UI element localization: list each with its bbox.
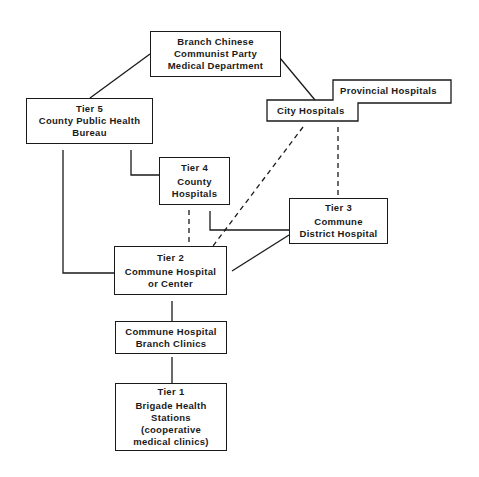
node-text: (cooperative (141, 424, 201, 436)
node-city-hospitals: City Hospitals (277, 105, 345, 116)
node-text: Commune Hospital (125, 326, 216, 338)
edge-party-city (275, 52, 315, 100)
node-text: Branch Chinese (177, 36, 254, 48)
node-provincial-hospitals: Provincial Hospitals (340, 85, 437, 96)
node-text: medical clinics) (133, 436, 209, 448)
node-text: County Public Health (39, 115, 141, 127)
node-text: or Center (148, 278, 193, 290)
node-text: Communist Party (174, 48, 257, 60)
tier-label: Tier 2 (157, 252, 184, 264)
node-tier2-commune-hospital: Tier 2 Commune Hospital or Center (114, 246, 227, 295)
edge-tier3-tier2 (232, 235, 289, 271)
health-system-diagram: Branch Chinese Communist Party Medical D… (0, 0, 479, 477)
node-tier5-county-public-health-bureau: Tier 5 County Public Health Bureau (26, 98, 153, 144)
node-tier4-county-hospitals: Tier 4 County Hospitals (159, 157, 230, 205)
node-tier1-brigade-health-stations: Tier 1 Brigade Health Stations (cooperat… (115, 383, 227, 451)
node-text: Commune Hospital (125, 266, 216, 278)
node-text: Stations (151, 412, 191, 424)
tier-label: Tier 3 (325, 202, 352, 214)
node-text: County (177, 176, 212, 188)
node-text: Commune (314, 216, 363, 228)
node-commune-hospital-branch-clinics: Commune Hospital Branch Clinics (115, 321, 227, 354)
node-text: Hospitals (172, 188, 217, 200)
edge-tier5-tier2 (63, 150, 114, 273)
node-party-medical-department: Branch Chinese Communist Party Medical D… (150, 31, 281, 77)
node-text: Branch Clinics (136, 338, 207, 350)
edge-tier5-tier4 (131, 150, 159, 175)
tier-label: Tier 4 (181, 162, 208, 174)
edge-tier4-tier3 (210, 211, 289, 230)
tier-label: Tier 1 (158, 386, 185, 398)
node-text: Brigade Health (135, 400, 206, 412)
node-text: Medical Department (168, 60, 264, 72)
tier-label: Tier 5 (76, 103, 103, 115)
edge-party-tier5 (90, 54, 150, 98)
node-text: Bureau (72, 127, 107, 139)
node-text: District Hospital (300, 228, 378, 240)
node-tier3-commune-district-hospital: Tier 3 Commune District Hospital (289, 198, 388, 244)
